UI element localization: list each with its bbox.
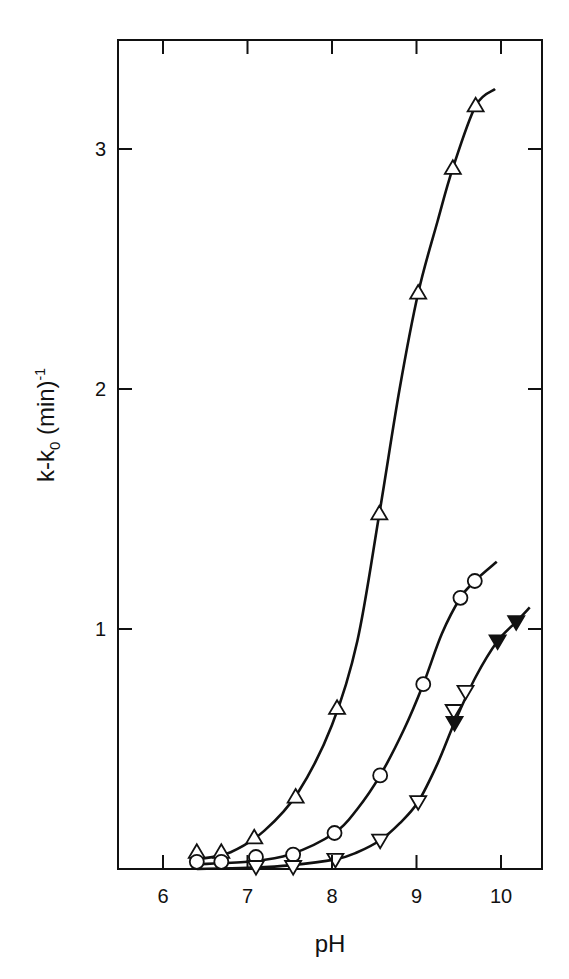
y-axis-ticks: 123 [95, 138, 542, 640]
axes-box [118, 40, 542, 869]
marker-open-circle [286, 848, 300, 862]
fit-curve-filled-down-triangle [197, 607, 530, 869]
marker-open-circle [453, 591, 467, 605]
data-markers [189, 98, 524, 875]
y-label-superscript: -1 [32, 368, 48, 381]
y-axis-label: k-k0 (min)-1 [32, 368, 63, 482]
marker-open-circle [214, 855, 228, 869]
svg-text:k-k0 (min)-1: k-k0 (min)-1 [32, 368, 63, 482]
ph-rate-chart: 678910 123 pH k-k0 (min)-1 [0, 0, 569, 979]
y-tick-label: 1 [95, 618, 106, 640]
marker-open-up-triangle [288, 789, 304, 803]
marker-open-down-triangle [285, 861, 301, 875]
x-tick-label: 6 [157, 885, 168, 907]
marker-open-down-triangle [372, 835, 388, 849]
marker-open-up-triangle [445, 160, 461, 174]
marker-open-circle [373, 768, 387, 782]
x-tick-label: 10 [490, 885, 512, 907]
y-label-main: k-k [32, 449, 59, 482]
marker-filled-down-triangle [447, 717, 463, 731]
marker-open-up-triangle [246, 830, 262, 844]
marker-open-circle [328, 826, 342, 840]
x-tick-label: 7 [242, 885, 253, 907]
marker-open-down-triangle [458, 686, 474, 700]
y-label-unit: (min) [32, 380, 59, 441]
marker-open-circle [468, 574, 482, 588]
x-tick-label: 9 [411, 885, 422, 907]
fit-curve-open-up-triangle [197, 89, 495, 859]
y-tick-label: 2 [95, 378, 106, 400]
y-tick-label: 3 [95, 138, 106, 160]
x-tick-label: 8 [326, 885, 337, 907]
x-axis-label: pH [315, 930, 346, 957]
marker-open-circle [190, 855, 204, 869]
y-label-subscript: 0 [46, 442, 63, 450]
plot-frame [118, 40, 542, 869]
fit-curves [197, 89, 530, 869]
marker-open-up-triangle [329, 700, 345, 714]
marker-open-up-triangle [371, 506, 387, 520]
marker-open-up-triangle [410, 285, 426, 299]
marker-open-circle [416, 677, 430, 691]
